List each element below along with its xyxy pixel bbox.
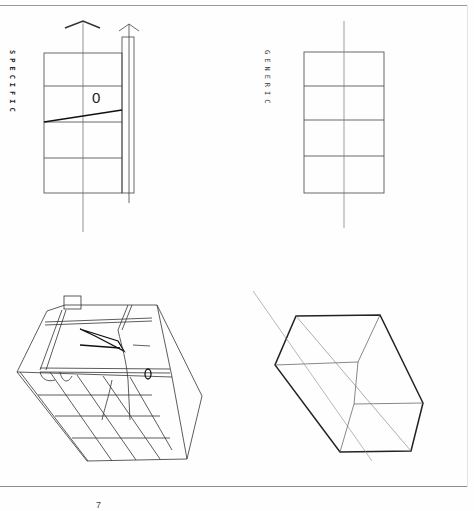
- section-mark: 0: [92, 89, 100, 106]
- generic-plan: [304, 21, 384, 228]
- specific-plan: [44, 21, 139, 232]
- specific-axonometric: [17, 296, 202, 461]
- generic-axonometric: [253, 291, 423, 461]
- drawing-sheet: SPECIFIC GENERIC: [0, 0, 474, 511]
- drawing-canvas: [0, 0, 474, 511]
- page-mark: 7: [96, 500, 101, 510]
